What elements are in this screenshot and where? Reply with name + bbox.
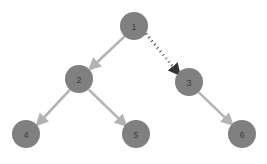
- diagram-canvas: 1 2 3 4 5 6: [0, 0, 267, 164]
- graph-node-3[interactable]: 3: [175, 68, 203, 96]
- node-circle-4[interactable]: [12, 120, 40, 148]
- node-circle-3[interactable]: [175, 68, 203, 96]
- graph-node-1[interactable]: 1: [120, 12, 148, 40]
- graph-node-4[interactable]: 4: [12, 120, 40, 148]
- edge-2-to-5: [89, 90, 126, 126]
- edge-1-to-3[interactable]: [146, 34, 179, 75]
- nodes-layer: 1 2 3 4 5 6: [12, 12, 256, 148]
- graph-node-5[interactable]: 5: [122, 120, 150, 148]
- edge-3-to-6: [199, 92, 233, 124]
- edge-2-to-4: [37, 90, 70, 125]
- graph-svg: 1 2 3 4 5 6: [0, 0, 267, 164]
- edge-1-to-2: [90, 36, 125, 69]
- graph-node-6[interactable]: 6: [228, 120, 256, 148]
- graph-node-2[interactable]: 2: [65, 65, 93, 93]
- node-circle-5[interactable]: [122, 120, 150, 148]
- node-circle-2[interactable]: [65, 65, 93, 93]
- node-circle-1[interactable]: [120, 12, 148, 40]
- node-circle-6[interactable]: [228, 120, 256, 148]
